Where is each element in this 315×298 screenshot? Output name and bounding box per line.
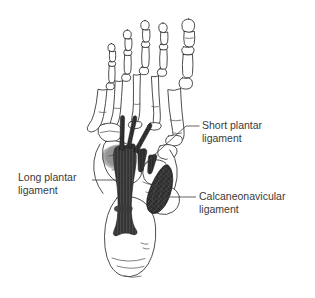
label-long-plantar-line1: Long plantar: [18, 171, 77, 183]
label-short-plantar-line2: ligament: [202, 132, 242, 144]
toe-3-phalanges: [141, 21, 150, 69]
label-calcaneonavicular-line2: ligament: [199, 203, 239, 215]
toe-2-phalanges: [159, 23, 168, 70]
label-long-plantar-line2: ligament: [18, 184, 58, 196]
figure-background: [0, 0, 315, 298]
label-calcaneonavicular-line1: Calcaneonavicular: [199, 190, 286, 202]
toe-4-phalanges: [123, 30, 132, 74]
toe-1-hallux-phalanges: [182, 19, 195, 78]
label-short-plantar-line1: Short plantar: [202, 119, 263, 131]
anatomy-figure: Short plantar ligament Long plantar liga…: [0, 0, 315, 298]
toe-5-phalanges: [108, 44, 116, 84]
foot-ligament-diagram: Short plantar ligament Long plantar liga…: [0, 0, 315, 298]
